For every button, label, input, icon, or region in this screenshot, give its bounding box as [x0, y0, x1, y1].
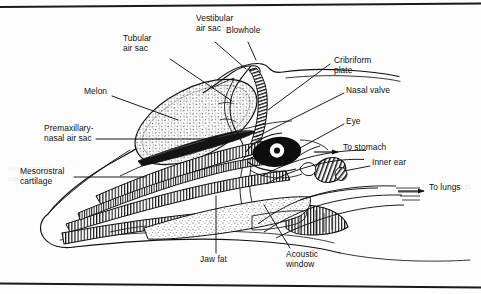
label-inner-ear: Inner ear	[372, 158, 406, 168]
leader-blowhole	[248, 42, 256, 60]
label-acoustic-window: Acoustic window	[286, 250, 318, 269]
inner-ear-bulla	[300, 154, 349, 187]
leader-inner-ear	[344, 166, 370, 171]
bottom-rule	[0, 284, 481, 288]
label-nasal-valve: Nasal valve	[346, 86, 390, 96]
label-to-lungs: To lungs	[429, 183, 461, 193]
label-eye: Eye	[346, 117, 361, 127]
leader-vestibular-air-sac	[215, 42, 246, 69]
label-cribriform-plate: Cribriform plate	[334, 56, 371, 75]
label-mesorostral-cartilage: Mesorostral cartilage	[20, 167, 64, 186]
label-tubular-air-sac: Tubular air sac	[123, 34, 151, 53]
label-blowhole: Blowhole	[226, 26, 260, 36]
diagram-canvas	[0, 0, 481, 294]
anatomical-figure: Mesorostral cartilage lungs Vestibular a…	[0, 0, 481, 294]
label-to-stomach: To stomach	[343, 143, 386, 153]
leader-nasal-valve	[256, 93, 344, 137]
label-jaw-fat: Jaw fat	[200, 255, 227, 265]
leader-eye	[300, 124, 344, 148]
leader-cribriform-plate	[268, 64, 330, 110]
label-melon: Melon	[84, 87, 107, 97]
label-premaxillary-nasal-air-sac: Premaxillary- nasal air sac	[44, 124, 94, 143]
top-rule	[0, 4, 481, 8]
